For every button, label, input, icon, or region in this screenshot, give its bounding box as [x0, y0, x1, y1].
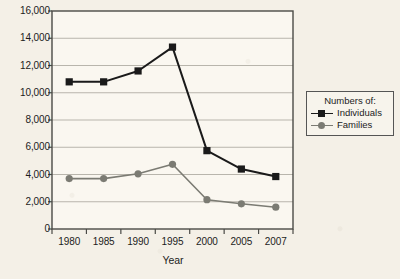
y-axis-tick-label: 12,000 [2, 61, 50, 71]
legend-entry-families: Families [307, 119, 393, 131]
chart-legend: Numbers of: Individuals Families [306, 91, 394, 136]
x-axis-ticks [52, 229, 293, 234]
x-axis-tick-label: 2007 [253, 236, 299, 248]
x-axis-title: Year [0, 254, 346, 266]
y-axis-tick-label: 8,000 [2, 115, 50, 125]
legend-entry-individuals: Individuals [307, 107, 393, 119]
y-axis-tick-label: 16,000 [2, 6, 50, 16]
legend-label-individuals: Individuals [337, 107, 382, 119]
y-axis-tick-label: 4,000 [2, 170, 50, 180]
x-axis-labels: 1980198519901995200020052007 [0, 236, 400, 250]
y-axis-tick-label: 6,000 [2, 142, 50, 152]
legend-title: Numbers of: [307, 95, 393, 106]
legend-key-circle-icon [311, 120, 333, 130]
y-axis-tick-label: 14,000 [2, 33, 50, 43]
legend-key-square-icon [311, 108, 333, 118]
y-axis-tick-label: 2,000 [2, 197, 50, 207]
y-axis-tick-label: 0 [2, 224, 50, 234]
y-axis-tick-label: 10,000 [2, 88, 50, 98]
legend-label-families: Families [337, 119, 372, 131]
line-chart: 02,0004,0006,0008,00010,00012,00014,0001… [0, 0, 400, 279]
